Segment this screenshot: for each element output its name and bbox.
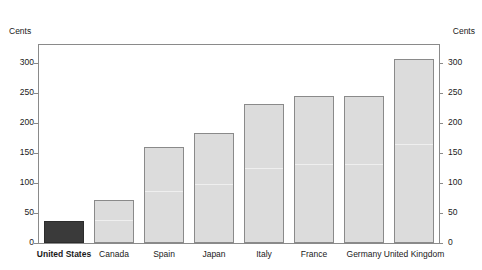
y-axis-tick-mark-right <box>439 93 443 94</box>
y-axis-tick-mark-left <box>34 63 38 64</box>
bar-united-kingdom <box>394 59 434 243</box>
y-axis-tick-label-right: 150 <box>448 148 462 157</box>
y-axis-tick-mark-right <box>439 63 443 64</box>
y-axis-tick-label-right: 300 <box>448 58 462 67</box>
bar-japan <box>194 133 234 243</box>
y-axis-tick-mark-right <box>439 213 443 214</box>
y-axis-tick-mark-left <box>34 243 38 244</box>
y-axis-tick-label-right: 100 <box>448 178 462 187</box>
y-axis-tick-label-right: 250 <box>448 88 462 97</box>
y-axis-tick-mark-left <box>34 123 38 124</box>
y-axis-tick-label-left: 200 <box>20 118 34 127</box>
y-axis-tick-mark-right <box>439 243 443 244</box>
y-axis-unit-caption-right: Cents <box>453 26 475 36</box>
y-axis-tick-label-right: 50 <box>448 208 457 217</box>
y-axis-tick-label-right: 200 <box>448 118 462 127</box>
y-axis-tick-mark-left <box>34 213 38 214</box>
bar-germany <box>344 96 384 243</box>
y-axis-tick-mark-right <box>439 123 443 124</box>
bar-france <box>294 96 334 243</box>
bar-series <box>39 45 439 243</box>
bar-united-states <box>44 221 84 243</box>
y-axis-tick-label-left: 50 <box>25 208 34 217</box>
y-axis-tick-label-right: 0 <box>448 238 453 247</box>
y-axis-tick-mark-left <box>34 153 38 154</box>
x-axis-label-united-kingdom: United Kingdom <box>364 249 464 260</box>
y-axis-unit-caption-left: Cents <box>9 26 31 36</box>
y-axis-tick-label-left: 250 <box>20 88 34 97</box>
x-axis-category-labels: United StatesCanadaSpainJapanItalyFrance… <box>39 249 439 263</box>
y-axis-tick-label-left: 100 <box>20 178 34 187</box>
y-axis-tick-mark-left <box>34 183 38 184</box>
y-axis-tick-mark-right <box>439 183 443 184</box>
bar-spain <box>144 147 184 243</box>
y-axis-tick-mark-left <box>34 93 38 94</box>
bar-canada <box>94 200 134 243</box>
y-axis-tick-label-left: 150 <box>20 148 34 157</box>
bar-chart: Cents Cents 0050501001001501502002002502… <box>0 0 482 270</box>
y-axis-tick-label-left: 300 <box>20 58 34 67</box>
y-axis-tick-mark-right <box>439 153 443 154</box>
bar-italy <box>244 104 284 243</box>
